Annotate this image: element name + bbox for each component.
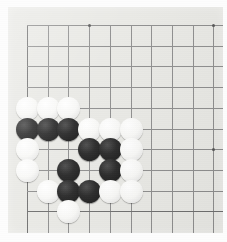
white-stone — [99, 180, 122, 203]
white-stone — [99, 118, 122, 141]
grid-line-horizontal — [27, 46, 223, 47]
black-stone — [57, 118, 80, 141]
white-stone — [120, 118, 143, 141]
white-stone — [120, 159, 143, 182]
white-stone — [16, 138, 39, 161]
white-stone — [57, 97, 80, 120]
black-stone — [99, 138, 122, 161]
hoshi-star-point — [88, 24, 91, 27]
hoshi-star-point — [212, 24, 215, 27]
white-stone — [16, 159, 39, 182]
black-stone — [57, 159, 80, 182]
white-stone — [16, 97, 39, 120]
go-board — [8, 7, 223, 233]
grid-line-horizontal — [27, 87, 223, 88]
black-stone — [78, 180, 101, 203]
black-stone — [57, 180, 80, 203]
white-stone — [120, 180, 143, 203]
black-stone — [16, 118, 39, 141]
grid-line-horizontal — [27, 25, 223, 26]
white-stone — [57, 200, 80, 223]
black-stone — [99, 159, 122, 182]
photograph — [0, 0, 227, 242]
white-stone — [120, 138, 143, 161]
hoshi-star-point — [212, 148, 215, 151]
grid-line-horizontal — [27, 66, 223, 67]
white-stone — [78, 118, 101, 141]
white-stone — [37, 180, 60, 203]
white-stone — [37, 97, 60, 120]
grid-line-horizontal — [27, 211, 223, 212]
black-stone — [37, 118, 60, 141]
black-stone — [78, 138, 101, 161]
